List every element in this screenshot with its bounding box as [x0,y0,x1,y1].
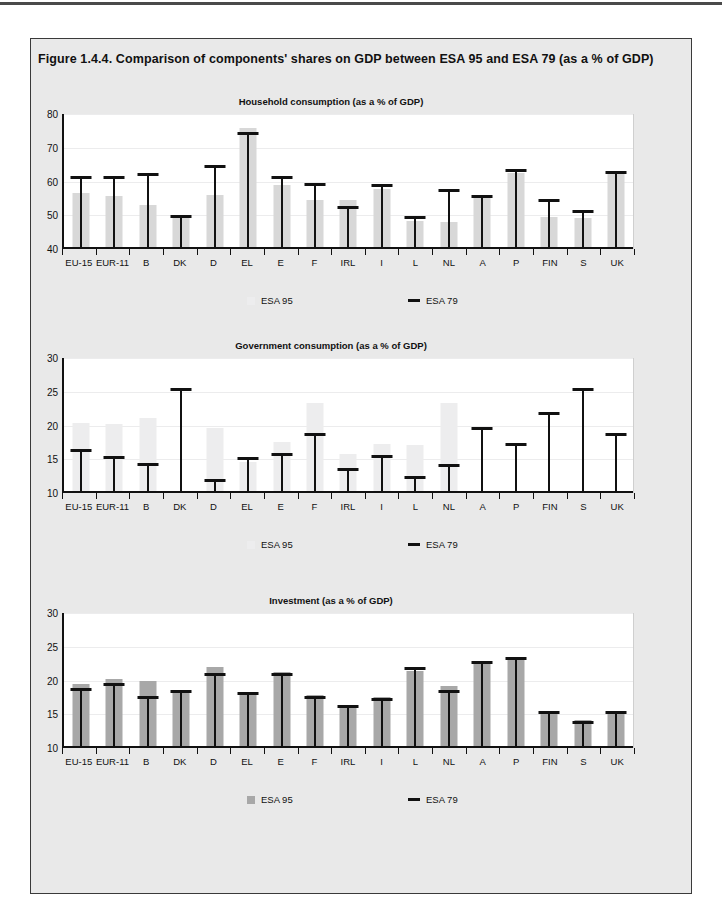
bar-group[interactable] [298,114,331,249]
bar-group[interactable] [332,358,365,493]
marker-esa79[interactable] [572,388,593,391]
bar-group[interactable] [64,114,97,249]
marker-esa79[interactable] [338,206,359,209]
legend-item-esa79[interactable]: ESA 79 [408,794,458,805]
bar-group[interactable] [432,358,465,493]
bar-group[interactable] [64,613,97,748]
bar-group[interactable] [533,114,566,249]
bar-group[interactable] [399,114,432,249]
legend-item-esa95[interactable]: ESA 95 [247,295,293,306]
bar-group[interactable] [198,613,231,748]
bar-group[interactable] [432,114,465,249]
bar-group[interactable] [566,114,599,249]
bar-group[interactable] [231,613,264,748]
marker-esa79[interactable] [271,453,292,456]
marker-esa79[interactable] [104,683,125,686]
marker-esa79[interactable] [137,696,158,699]
marker-esa79[interactable] [171,388,192,391]
bar-group[interactable] [399,613,432,748]
bar-group[interactable] [600,358,633,493]
marker-esa79[interactable] [70,449,91,452]
bar-group[interactable] [97,114,130,249]
bar-group[interactable] [533,613,566,748]
marker-esa79[interactable] [472,661,493,664]
bar-group[interactable] [231,358,264,493]
marker-esa79[interactable] [137,463,158,466]
marker-esa79[interactable] [539,199,560,202]
marker-esa79[interactable] [572,721,593,724]
marker-esa79[interactable] [371,184,392,187]
bar-group[interactable] [499,613,532,748]
bar-group[interactable] [365,114,398,249]
bar-group[interactable] [265,114,298,249]
bar-group[interactable] [265,358,298,493]
bar-group[interactable] [265,613,298,748]
marker-esa79[interactable] [438,464,459,467]
marker-esa79[interactable] [572,210,593,213]
bar-group[interactable] [432,613,465,748]
marker-esa79[interactable] [505,169,526,172]
bar-group[interactable] [97,358,130,493]
bar-group[interactable] [566,358,599,493]
marker-esa79[interactable] [271,673,292,676]
marker-esa79[interactable] [204,479,225,482]
marker-esa79[interactable] [204,165,225,168]
bar-group[interactable] [332,613,365,748]
bar-group[interactable] [566,613,599,748]
marker-esa79[interactable] [338,468,359,471]
bar-group[interactable] [365,358,398,493]
marker-esa79[interactable] [305,183,326,186]
marker-esa79[interactable] [438,690,459,693]
marker-esa79[interactable] [238,132,259,135]
marker-esa79[interactable] [472,195,493,198]
marker-esa79[interactable] [104,456,125,459]
bar-group[interactable] [298,358,331,493]
bar-group[interactable] [131,114,164,249]
bar-group[interactable] [533,358,566,493]
bar-group[interactable] [131,613,164,748]
marker-esa79[interactable] [472,427,493,430]
marker-esa79[interactable] [305,433,326,436]
bar-group[interactable] [298,613,331,748]
marker-esa79[interactable] [438,189,459,192]
marker-esa79[interactable] [405,216,426,219]
marker-esa79[interactable] [305,696,326,699]
marker-esa79[interactable] [70,176,91,179]
bar-group[interactable] [198,358,231,493]
bar-group[interactable] [600,114,633,249]
bar-group[interactable] [365,613,398,748]
marker-esa79[interactable] [204,673,225,676]
bar-group[interactable] [164,613,197,748]
bar-group[interactable] [164,114,197,249]
bar-group[interactable] [64,358,97,493]
marker-esa79[interactable] [371,698,392,701]
marker-esa79[interactable] [606,711,627,714]
bar-group[interactable] [600,613,633,748]
bar-group[interactable] [97,613,130,748]
marker-esa79[interactable] [606,433,627,436]
bar-group[interactable] [332,114,365,249]
marker-esa79[interactable] [505,657,526,660]
marker-esa79[interactable] [539,711,560,714]
marker-esa79[interactable] [104,176,125,179]
bar-group[interactable] [466,114,499,249]
marker-esa79[interactable] [238,692,259,695]
marker-esa79[interactable] [171,690,192,693]
marker-esa79[interactable] [271,176,292,179]
marker-esa79[interactable] [371,455,392,458]
marker-esa79[interactable] [606,171,627,174]
marker-esa79[interactable] [405,476,426,479]
bar-group[interactable] [164,358,197,493]
marker-esa79[interactable] [70,688,91,691]
marker-esa79[interactable] [137,173,158,176]
bar-group[interactable] [499,114,532,249]
bar-group[interactable] [466,358,499,493]
legend-item-esa79[interactable]: ESA 79 [408,295,458,306]
legend-item-esa95[interactable]: ESA 95 [247,794,293,805]
legend-item-esa79[interactable]: ESA 79 [408,539,458,550]
bar-group[interactable] [399,358,432,493]
marker-esa79[interactable] [505,443,526,446]
bar-group[interactable] [131,358,164,493]
marker-esa79[interactable] [338,705,359,708]
marker-esa79[interactable] [405,667,426,670]
